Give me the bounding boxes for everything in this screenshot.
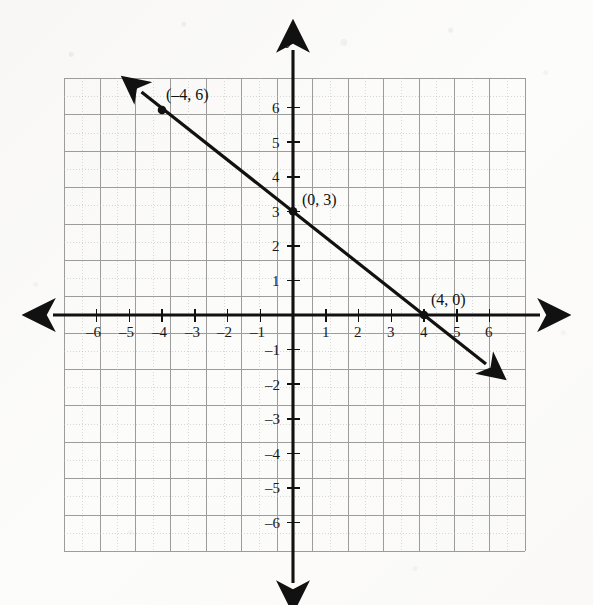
- y-tick-label-5: 5: [272, 136, 280, 151]
- point-label-neg4-6: (–4, 6): [166, 87, 209, 103]
- x-tick-label-3: 3: [387, 325, 395, 340]
- y-tick-label--3: –3: [265, 412, 280, 427]
- y-tick-label--6: –6: [265, 516, 280, 531]
- x-tick-label-2: 2: [354, 325, 362, 340]
- y-axis-label: y: [287, 31, 294, 47]
- y-tick-label--4: –4: [265, 447, 280, 462]
- x-tick-label--3: –3: [185, 325, 200, 340]
- y-tick-label--5: –5: [265, 481, 280, 496]
- y-tick-label--2: –2: [265, 378, 280, 393]
- x-axis-label: x: [553, 307, 560, 323]
- point-label-0-3: (0, 3): [302, 192, 337, 208]
- point-marker-0-3: [289, 207, 298, 216]
- x-tick-label--5: –5: [119, 325, 134, 340]
- graph-page: –6 –5 –4 –3 –2 –1 1 2 3 4 5 6 6 5 4 3 2 …: [0, 0, 593, 605]
- y-tick-label-1: 1: [272, 274, 280, 289]
- coordinate-plane-svg: [0, 0, 593, 605]
- x-tick-label--1: –1: [250, 325, 265, 340]
- x-tick-label-6: 6: [485, 325, 493, 340]
- y-tick-label-2: 2: [272, 239, 280, 254]
- x-tick-label-1: 1: [322, 325, 330, 340]
- x-tick-label--4: –4: [152, 325, 167, 340]
- y-tick-label-3: 3: [272, 205, 280, 220]
- x-tick-label-5: 5: [453, 325, 461, 340]
- point-marker-4-0: [420, 311, 429, 320]
- y-tick-label--1: –1: [265, 343, 280, 358]
- point-marker-neg4-6: [158, 106, 167, 115]
- x-tick-label--6: –6: [86, 325, 101, 340]
- x-tick-label--2: –2: [217, 325, 232, 340]
- point-label-4-0: (4, 0): [431, 292, 466, 308]
- y-tick-label-4: 4: [272, 170, 280, 185]
- y-tick-label-6: 6: [272, 101, 280, 116]
- x-tick-label-4: 4: [420, 325, 428, 340]
